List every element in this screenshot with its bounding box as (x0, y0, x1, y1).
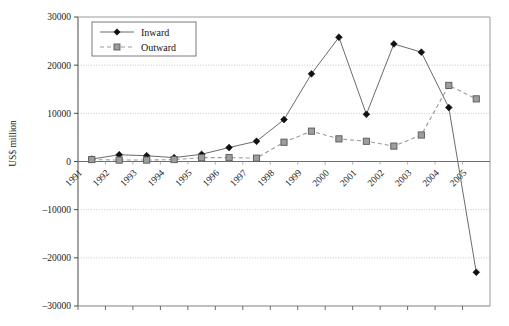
y-axis-title: US$ million (8, 120, 18, 167)
y-tick-label: –30000 (42, 301, 72, 311)
data-point-marker (226, 155, 232, 161)
y-axis: 3000020000100000–10000–20000–30000 (42, 12, 79, 311)
x-tick-label: 1993 (118, 168, 139, 189)
data-point-marker (473, 96, 479, 102)
y-tick-label: –10000 (42, 205, 72, 215)
x-tick-label: 1992 (91, 168, 112, 189)
data-point-marker (363, 138, 369, 144)
data-point-marker (308, 128, 314, 134)
data-point-marker (226, 144, 233, 151)
data-point-marker (116, 157, 122, 163)
x-tick-label: 1998 (256, 168, 277, 189)
data-point-marker (446, 82, 452, 88)
legend: InwardOutward (92, 22, 196, 56)
data-point-marker (336, 136, 342, 142)
data-point-marker (144, 157, 150, 163)
legend-label: Outward (141, 42, 176, 53)
x-tick-label: 2004 (420, 168, 441, 189)
data-point-marker (445, 104, 452, 111)
y-tick-label: 0 (66, 157, 71, 167)
x-tick-label: 1995 (173, 168, 194, 189)
x-tick-label: 1999 (283, 168, 304, 189)
plot-frame (78, 17, 490, 306)
data-point-marker (281, 139, 287, 145)
x-tick-label: 2000 (311, 168, 332, 189)
line-chart: 3000020000100000–10000–20000–30000US$ mi… (0, 0, 509, 326)
legend-label: Inward (141, 27, 169, 38)
data-point-marker (391, 143, 397, 149)
data-point-marker (473, 269, 480, 276)
y-tick-label: 20000 (47, 61, 71, 71)
data-point-marker (418, 49, 425, 56)
y-tick-label: –20000 (42, 253, 72, 263)
x-tick-label: 2005 (448, 168, 469, 189)
x-tick-label: 2001 (338, 168, 359, 189)
data-point-marker (171, 156, 177, 162)
data-point-marker (253, 155, 259, 161)
x-tick-label: 1996 (201, 168, 222, 189)
legend-marker (114, 44, 120, 50)
x-tick-label: 1991 (63, 168, 84, 189)
x-tick-label: 1997 (228, 168, 249, 189)
x-tick-label: 2003 (393, 168, 414, 189)
y-tick-label: 30000 (47, 12, 71, 22)
data-point-marker (363, 111, 370, 118)
data-point-marker (418, 132, 424, 138)
x-tick-label: 2002 (366, 168, 387, 189)
data-point-marker (199, 155, 205, 161)
x-axis: 1991199219931994199519961997199819992000… (63, 162, 468, 311)
data-point-marker (89, 156, 95, 162)
data-point-marker (390, 41, 397, 48)
series-inward (88, 34, 479, 276)
x-tick-label: 1994 (146, 168, 167, 189)
chart-container: 3000020000100000–10000–20000–30000US$ mi… (0, 0, 509, 326)
y-tick-label: 10000 (47, 109, 71, 119)
